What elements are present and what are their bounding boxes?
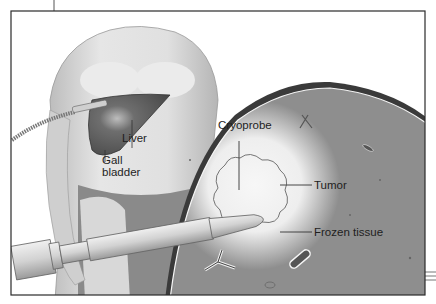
cryosurgery-illustration: Liver Gall bladder Cryoprobe Tumor Froze… bbox=[0, 0, 436, 304]
label-gall-bladder-line2: bladder bbox=[102, 166, 140, 178]
label-liver: Liver bbox=[122, 132, 147, 144]
label-gall-bladder: Gall bladder bbox=[102, 154, 140, 178]
label-gall-bladder-line1: Gall bbox=[102, 154, 140, 166]
label-tumor: Tumor bbox=[314, 179, 347, 191]
label-frozen-tissue: Frozen tissue bbox=[314, 226, 383, 238]
label-cryoprobe: Cryoprobe bbox=[218, 119, 272, 131]
illustration-canvas bbox=[0, 0, 436, 304]
